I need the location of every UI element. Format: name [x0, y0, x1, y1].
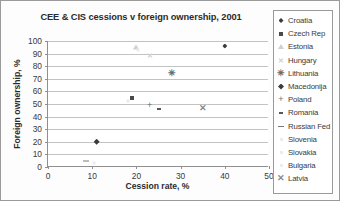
y-tick	[45, 154, 48, 155]
x-tick	[269, 166, 270, 169]
data-point-poland: +	[147, 101, 152, 110]
legend-item-label: Macedonija	[288, 82, 326, 91]
gridline-y	[48, 91, 268, 92]
legend-marker-icon	[277, 122, 285, 131]
chart-legend: CroatiaCzech RepEstonia✕Hungary✳Lithuani…	[273, 10, 333, 194]
data-point-croatia	[222, 44, 227, 49]
legend-marker-icon	[277, 135, 285, 144]
legend-item-label: Russian Fed	[288, 122, 330, 131]
gridline-y	[48, 41, 268, 42]
data-point-slovenia	[126, 100, 129, 103]
legend-marker-icon	[277, 16, 285, 25]
gridline-y	[48, 104, 268, 105]
x-tick	[136, 166, 137, 169]
x-tick-label: 10	[88, 171, 97, 181]
y-tick	[45, 41, 48, 42]
x-tick-label: 30	[176, 171, 185, 181]
legend-item-label: Czech Rep	[288, 29, 325, 38]
y-tick-label: 40	[33, 112, 42, 122]
x-tick-label: 40	[220, 171, 229, 181]
chart-frame: CEE & CIS cessions v foreign ownership, …	[0, 0, 340, 201]
y-tick-label: 30	[33, 124, 42, 134]
gridline-y	[48, 129, 268, 130]
legend-item-slovakia[interactable]: Slovakia	[277, 146, 330, 159]
legend-item-label: Poland	[288, 95, 311, 104]
legend-item-label: Slovakia	[288, 148, 316, 157]
legend-item-lithuania[interactable]: ✳Lithuania	[277, 67, 330, 80]
data-point-hungary: ✕	[147, 51, 153, 58]
legend-item-poland[interactable]: +Poland	[277, 93, 330, 106]
legend-item-label: Croatia	[288, 16, 312, 25]
legend-item-russian-fed[interactable]: Russian Fed	[277, 120, 330, 133]
legend-item-hungary[interactable]: ✕Hungary	[277, 54, 330, 67]
y-tick-label: 80	[33, 61, 42, 71]
legend-marker-icon	[277, 161, 285, 170]
legend-item-label: Lithuania	[288, 69, 318, 78]
x-tick	[92, 166, 93, 169]
legend-item-bulgaria[interactable]: Bulgaria	[277, 159, 330, 172]
x-axis-title: Cession rate, %	[47, 181, 268, 191]
y-tick-label: 70	[33, 74, 42, 84]
y-tick-label: 10	[33, 149, 42, 159]
legend-item-slovenia[interactable]: Slovenia	[277, 133, 330, 146]
y-tick	[45, 91, 48, 92]
y-axis-title: Foreign ownership, %	[10, 41, 23, 167]
y-tick	[45, 117, 48, 118]
legend-item-macedonija[interactable]: Macedonija	[277, 80, 330, 93]
legend-item-croatia[interactable]: Croatia	[277, 14, 330, 27]
legend-item-romania[interactable]: Romania	[277, 106, 330, 119]
x-tick	[225, 166, 226, 169]
legend-marker-icon: +	[277, 95, 285, 104]
legend-item-label: Slovenia	[288, 135, 317, 144]
data-point-slovakia	[136, 48, 139, 51]
data-point-czech-rep	[130, 96, 134, 100]
y-tick-label: 0	[37, 162, 42, 172]
x-tick	[181, 166, 182, 169]
legend-item-latvia[interactable]: ✕Latvia	[277, 172, 330, 185]
x-tick-label: 0	[46, 171, 51, 181]
y-tick	[45, 66, 48, 67]
legend-marker-icon: ✕	[277, 56, 285, 65]
legend-item-label: Romania	[288, 108, 318, 117]
y-tick	[45, 142, 48, 143]
y-tick	[45, 79, 48, 80]
legend-item-label: Estonia	[288, 42, 313, 51]
y-tick-label: 60	[33, 86, 42, 96]
legend-item-label: Hungary	[288, 56, 316, 65]
y-tick-label: 100	[28, 36, 42, 46]
legend-marker-icon	[277, 108, 285, 117]
legend-item-czech-rep[interactable]: Czech Rep	[277, 27, 330, 40]
y-tick-label: 20	[33, 137, 42, 147]
chart-title: CEE & CIS cessions v foreign ownership, …	[15, 12, 267, 22]
y-tick	[45, 54, 48, 55]
gridline-y	[48, 79, 268, 80]
legend-item-label: Bulgaria	[288, 161, 315, 170]
data-point-russian-fed	[83, 160, 89, 161]
gridline-y	[48, 66, 268, 67]
gridline-y	[48, 142, 268, 143]
legend-marker-icon	[277, 29, 285, 38]
data-point-estonia	[133, 45, 139, 50]
x-tick	[48, 166, 49, 169]
legend-item-estonia[interactable]: Estonia	[277, 40, 330, 53]
x-tick-label: 20	[132, 171, 141, 181]
y-tick-label: 50	[33, 99, 42, 109]
data-point-bulgaria	[93, 162, 96, 165]
legend-item-label: Latvia	[288, 174, 308, 183]
y-axis-title-label: Foreign ownership, %	[12, 59, 22, 148]
legend-marker-icon: ✕	[277, 174, 285, 183]
gridline-y	[48, 117, 268, 118]
gridline-y	[48, 54, 268, 55]
legend-marker-icon: ✳	[277, 69, 285, 78]
y-tick	[45, 104, 48, 105]
y-tick-label: 90	[33, 49, 42, 59]
gridline-y	[48, 154, 268, 155]
legend-marker-icon	[277, 42, 285, 51]
data-point-romania	[157, 108, 161, 110]
legend-marker-icon	[277, 148, 285, 157]
data-point-lithuania: ✳	[168, 68, 176, 77]
legend-marker-icon	[277, 82, 285, 91]
plot-area: 010203040506070809010001020304050✕✳+✕	[47, 41, 268, 167]
y-tick	[45, 129, 48, 130]
